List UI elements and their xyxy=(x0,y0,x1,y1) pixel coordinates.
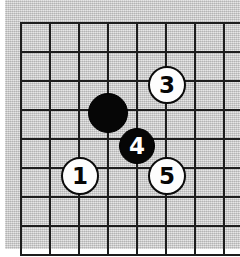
go-stone-white-5[interactable]: 5 xyxy=(148,157,186,195)
grid-line-horizontal xyxy=(20,109,240,111)
go-diagram-screen: 1345 xyxy=(0,0,240,257)
go-stone-move-number: 3 xyxy=(159,73,175,96)
grid-line-vertical xyxy=(223,22,225,256)
grid-line-horizontal xyxy=(20,196,240,198)
grid-line-horizontal xyxy=(20,225,240,227)
grid-line-vertical xyxy=(107,22,109,256)
go-stone-white-3[interactable]: 3 xyxy=(148,66,186,104)
go-stone-black-unnumbered[interactable] xyxy=(88,93,128,133)
grid-line-horizontal xyxy=(20,167,240,169)
grid-line-vertical xyxy=(20,22,22,256)
grid-line-horizontal xyxy=(20,22,240,24)
grid-line-vertical xyxy=(78,22,80,256)
go-stone-move-number: 5 xyxy=(159,164,175,187)
go-stone-move-number: 1 xyxy=(72,164,88,187)
grid-line-vertical xyxy=(194,22,196,256)
go-stone-move-number: 4 xyxy=(129,134,145,157)
grid-line-horizontal xyxy=(20,80,240,82)
grid-line-horizontal xyxy=(20,254,240,256)
go-stone-white-1[interactable]: 1 xyxy=(61,157,99,195)
grid-line-horizontal xyxy=(20,51,240,53)
grid-line-vertical xyxy=(49,22,51,256)
go-stone-black-4[interactable]: 4 xyxy=(119,128,155,164)
grid-line-vertical xyxy=(165,22,167,256)
go-board-surface[interactable]: 1345 xyxy=(5,0,240,249)
